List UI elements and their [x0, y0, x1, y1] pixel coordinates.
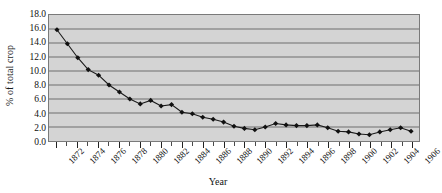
data-point-marker — [211, 117, 216, 122]
data-point-marker — [159, 103, 164, 108]
x-axis-title-container: Year — [0, 176, 428, 187]
y-axis-tick-label: 4.0 — [12, 109, 46, 119]
x-axis-tick-label: 1872 — [66, 146, 86, 166]
y-axis-tick-label: 2.0 — [12, 123, 46, 133]
data-point-marker — [367, 132, 372, 137]
data-point-marker — [336, 129, 341, 134]
x-axis-tick-label: 1886 — [213, 146, 233, 166]
x-axis-tick-label: 1892 — [276, 146, 296, 166]
data-point-marker — [200, 115, 205, 120]
x-axis-tick-label: 1888 — [234, 146, 254, 166]
y-axis-tick-label: 10.0 — [12, 66, 46, 76]
data-point-marker — [388, 127, 393, 132]
plot-area — [48, 14, 420, 142]
x-axis-tick-label: 1906 — [422, 146, 442, 166]
x-axis-tick-label: 1896 — [318, 146, 338, 166]
y-axis-tick-label: 12.0 — [12, 52, 46, 62]
x-axis-tick-labels: 1872187418761878188018821884188618881890… — [0, 146, 428, 180]
x-axis-tick-label: 1880 — [150, 146, 170, 166]
data-point-marker — [377, 129, 382, 134]
series-line — [57, 30, 411, 135]
x-axis-tick-label: 1902 — [380, 146, 400, 166]
x-axis-tick-label: 1898 — [339, 146, 359, 166]
data-point-marker — [190, 111, 195, 116]
x-axis-tick-label: 1900 — [359, 146, 379, 166]
data-point-marker — [398, 125, 403, 130]
x-axis-title: Year — [209, 176, 227, 187]
x-axis-tick-label: 1884 — [192, 146, 212, 166]
x-axis-tick-label: 1904 — [401, 146, 421, 166]
x-axis-tick-label: 1878 — [129, 146, 149, 166]
y-axis-tick-label: 8.0 — [12, 80, 46, 90]
data-point-marker — [325, 125, 330, 130]
data-point-marker — [408, 129, 413, 134]
y-axis-tick-label: 14.0 — [12, 37, 46, 47]
y-axis-tick-label: 18.0 — [12, 9, 46, 19]
data-point-marker — [263, 124, 268, 129]
data-point-marker — [273, 121, 278, 126]
data-point-marker — [221, 120, 226, 125]
y-axis-tick-label: 6.0 — [12, 94, 46, 104]
x-axis-tick-label: 1876 — [108, 146, 128, 166]
x-axis-tick-label: 1890 — [255, 146, 275, 166]
x-axis-tick-label: 1894 — [297, 146, 317, 166]
x-axis-tick-label: 1874 — [87, 146, 107, 166]
x-axis-tick-label: 1882 — [171, 146, 191, 166]
data-point-marker — [138, 101, 143, 106]
series-canvas — [49, 15, 419, 141]
data-point-marker — [231, 124, 236, 129]
y-axis-tick-label: 16.0 — [12, 23, 46, 33]
data-point-marker — [356, 131, 361, 136]
data-point-marker — [346, 129, 351, 134]
data-point-marker — [252, 127, 257, 132]
